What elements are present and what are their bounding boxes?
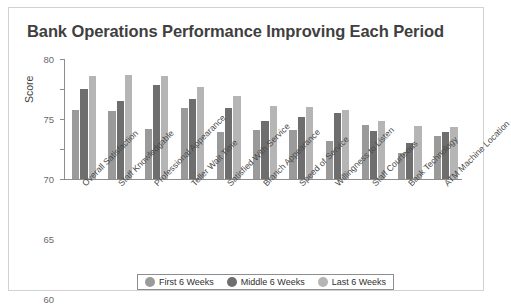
bar	[161, 76, 168, 179]
legend-item: Middle 6 Weeks	[227, 277, 305, 287]
chart-legend: First 6 WeeksMiddle 6 WeeksLast 6 Weeks	[137, 274, 394, 290]
bar	[181, 108, 188, 179]
bar	[80, 89, 87, 179]
legend-item: Last 6 Weeks	[318, 277, 386, 287]
y-tick-label: 65	[43, 234, 54, 245]
bar	[153, 85, 160, 179]
legend-swatch-circle-icon	[318, 277, 328, 287]
legend-label: Middle 6 Weeks	[241, 277, 305, 287]
bar	[125, 75, 132, 179]
y-tick-label: 80	[43, 54, 54, 65]
y-axis-title: Score	[23, 76, 35, 103]
legend-swatch-circle-icon	[227, 277, 237, 287]
legend-label: First 6 Weeks	[159, 277, 214, 287]
y-tick-label: 75	[43, 114, 54, 125]
y-tick-label: 60	[43, 294, 54, 305]
x-axis-category-labels: Overall SatisfactionStaff KnowledgablePr…	[64, 181, 462, 269]
bar	[89, 76, 96, 179]
legend-item: First 6 Weeks	[145, 277, 214, 287]
chart-container: Bank Operations Performance Improving Ea…	[8, 7, 484, 291]
chart-title: Bank Operations Performance Improving Ea…	[27, 22, 444, 41]
legend-label: Last 6 Weeks	[332, 277, 386, 287]
y-tick-label: 70	[43, 174, 54, 185]
bar-group	[72, 59, 96, 179]
bar	[72, 110, 79, 179]
legend-swatch-circle-icon	[145, 277, 155, 287]
